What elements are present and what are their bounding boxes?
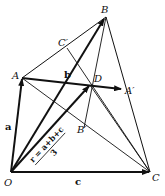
- label-vector-b: b: [64, 69, 71, 80]
- segment-DC: [90, 85, 150, 172]
- label-vector-c: c: [75, 176, 81, 187]
- formula-r: r = a+b+c 3: [27, 124, 74, 172]
- vector-AAprime: [22, 78, 121, 89]
- vector-centroid-diagram: B A O C D A′ C′ B′ a b c r = a+b+c 3: [0, 0, 165, 196]
- label-C-prime: C′: [58, 37, 69, 48]
- label-C: C: [152, 172, 160, 183]
- label-O: O: [4, 177, 12, 188]
- label-B-prime: B′: [76, 124, 87, 135]
- label-D: D: [93, 73, 102, 84]
- label-A: A: [11, 70, 19, 81]
- formula-denominator: 3: [48, 147, 59, 158]
- label-B: B: [100, 4, 108, 15]
- label-vector-a: a: [5, 121, 12, 132]
- formula-numerator: r = a+b+c: [27, 124, 65, 164]
- label-A-prime: A′: [124, 85, 135, 96]
